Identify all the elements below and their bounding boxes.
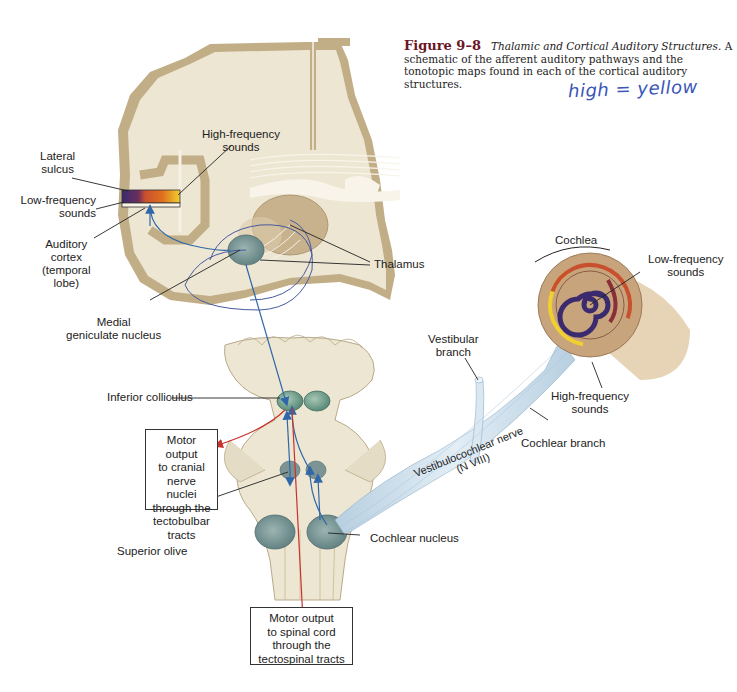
box-spinal-motor-output: Motor output to spinal cord through the … bbox=[250, 607, 353, 665]
label-auditory-cortex: Auditory cortex (temporal lobe) bbox=[42, 238, 91, 290]
figure-number: Figure 9–8 bbox=[404, 38, 481, 53]
label-low-frequency-cortex: Low-frequency sounds bbox=[14, 194, 96, 220]
brainstem bbox=[218, 265, 386, 640]
label-high-frequency-cortex: High-frequency sounds bbox=[202, 128, 280, 154]
label-inferior-colliculus: Inferior colliculus bbox=[107, 391, 193, 404]
label-medial-geniculate-nucleus: Medial geniculate nucleus bbox=[66, 316, 161, 342]
label-low-frequency-cochlea: Low-frequency sounds bbox=[648, 253, 723, 279]
label-thalamus: Thalamus bbox=[374, 258, 425, 271]
coronal-brain-section bbox=[118, 42, 400, 310]
label-high-frequency-cochlea: High-frequency sounds bbox=[551, 390, 629, 416]
label-cochlear-nucleus: Cochlear nucleus bbox=[370, 532, 459, 545]
anatomy-illustration bbox=[0, 0, 737, 692]
label-superior-olive: Superior olive bbox=[117, 545, 187, 558]
box-cranial-motor-output: Motor output to cranial nerve nuclei thr… bbox=[145, 429, 218, 510]
figure-title: Thalamic and Cortical Auditory Structure… bbox=[491, 40, 721, 52]
label-cochlear-branch: Cochlear branch bbox=[521, 437, 605, 450]
label-cochlea: Cochlea bbox=[555, 234, 597, 247]
auditory-pathway-figure: Figure 9–8 Thalamic and Cortical Auditor… bbox=[0, 0, 737, 692]
label-vestibular-branch: Vestibular branch bbox=[428, 333, 479, 359]
label-lateral-sulcus: Lateral sulcus bbox=[40, 150, 75, 176]
